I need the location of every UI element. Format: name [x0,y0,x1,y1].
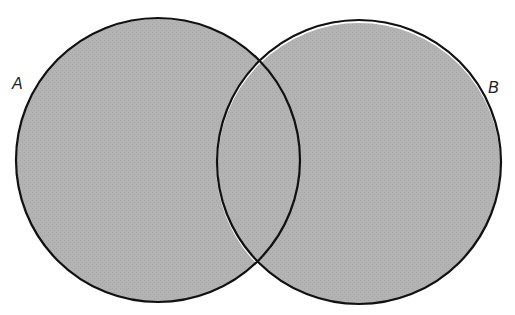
venn-diagram: A B [0,0,515,315]
set-a-label: A [11,75,23,92]
set-b-label: B [488,79,499,96]
